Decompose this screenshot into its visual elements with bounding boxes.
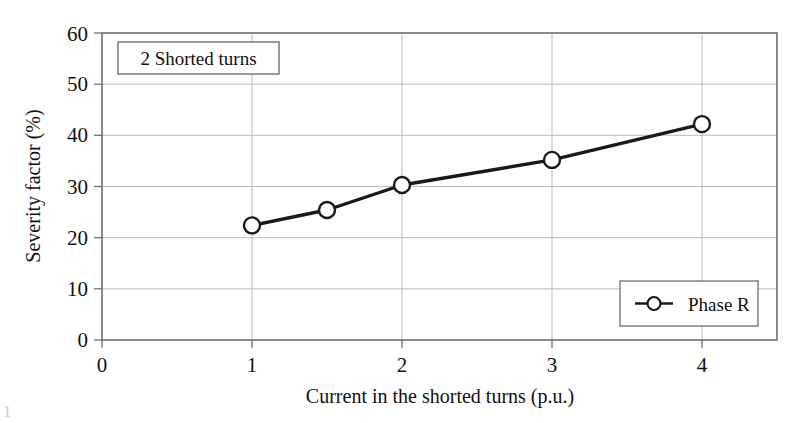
x-axis-title: Current in the shorted turns (p.u.) (306, 385, 574, 408)
y-tick-label-0: 0 (78, 328, 89, 352)
annotation-shorted-turns: 2 Shorted turns (118, 42, 279, 74)
annotation-label: 2 Shorted turns (140, 48, 256, 69)
y-axis-title: Severity factor (%) (22, 109, 45, 262)
x-tick-label-1: 1 (247, 353, 258, 377)
data-point-5 (694, 116, 710, 132)
x-axis-ticks (102, 340, 702, 348)
legend-marker-circle-icon (648, 297, 661, 310)
figure-container: 0 10 20 30 40 50 60 0 1 2 3 4 Current in… (0, 0, 807, 423)
x-tick-label-2: 2 (397, 353, 408, 377)
y-tick-label-10: 10 (67, 277, 88, 301)
y-tick-label-50: 50 (67, 72, 88, 96)
y-tick-label-30: 30 (67, 175, 88, 199)
legend-label-phase-r: Phase R (688, 294, 750, 315)
x-tick-labels: 0 1 2 3 4 (97, 353, 708, 377)
legend: Phase R (620, 281, 758, 326)
data-point-4 (544, 152, 560, 168)
x-tick-label-3: 3 (547, 353, 558, 377)
y-tick-labels: 0 10 20 30 40 50 60 (67, 22, 88, 352)
y-tick-label-20: 20 (67, 226, 88, 250)
data-point-3 (394, 177, 410, 193)
y-tick-label-40: 40 (67, 123, 88, 147)
y-tick-label-60: 60 (67, 22, 88, 46)
page-corner-artifact: 1 (3, 404, 11, 419)
data-point-1 (244, 217, 260, 233)
data-point-2 (319, 202, 335, 218)
x-tick-label-4: 4 (697, 353, 708, 377)
severity-factor-line-chart: 0 10 20 30 40 50 60 0 1 2 3 4 Current in… (0, 0, 807, 423)
x-tick-label-0: 0 (97, 353, 108, 377)
y-axis-ticks (94, 33, 102, 340)
